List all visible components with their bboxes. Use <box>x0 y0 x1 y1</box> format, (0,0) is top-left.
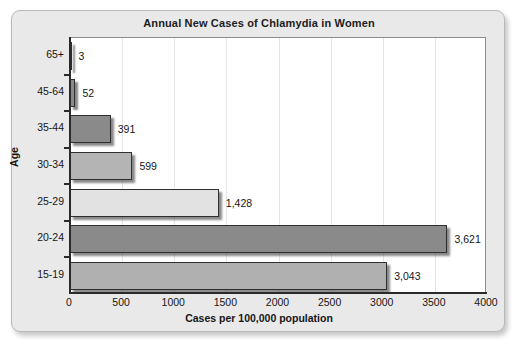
x-axis-tick-label: 2000 <box>266 296 289 308</box>
chart-title: Annual New Cases of Chlamydia in Women <box>12 17 506 29</box>
y-axis-tick <box>64 183 70 185</box>
x-axis-tick-label: 3500 <box>422 296 445 308</box>
y-axis-tick <box>64 220 70 222</box>
bar-row: 3,621 <box>70 225 486 253</box>
x-axis-labels: 05001000150020002500300035004000 <box>69 296 486 312</box>
y-axis-tick-label: 15-19 <box>16 268 64 280</box>
bar-row: 52 <box>70 79 486 107</box>
x-axis-title: Cases per 100,000 population <box>12 312 506 324</box>
bar-value-label: 3,043 <box>387 270 420 282</box>
bar-row: 3 <box>70 42 486 70</box>
bar-value-label: 391 <box>111 123 136 135</box>
y-axis-tick-label: 20-24 <box>16 231 64 243</box>
chart-card: Annual New Cases of Chlamydia in Women A… <box>11 10 505 332</box>
y-axis-tick <box>64 110 70 112</box>
bar-value-label: 3 <box>72 50 85 62</box>
bar-value-label: 52 <box>75 87 94 99</box>
bar <box>70 189 219 217</box>
bar <box>70 152 132 180</box>
y-axis-tick-label: 25-29 <box>16 195 64 207</box>
x-axis-tick-label: 2500 <box>318 296 341 308</box>
x-axis-tick-label: 500 <box>112 296 130 308</box>
bar-row: 3,043 <box>70 262 486 290</box>
bar-row: 599 <box>70 152 486 180</box>
bar-value-label: 3,621 <box>447 233 480 245</box>
x-axis-tick-label: 4000 <box>474 296 497 308</box>
bar-row: 391 <box>70 115 486 143</box>
x-axis-tick-label: 1500 <box>214 296 237 308</box>
y-axis-tick <box>64 147 70 149</box>
y-axis-tick-label: 30-34 <box>16 158 64 170</box>
plot-area: 3523915991,4283,6213,043 <box>69 37 486 293</box>
bar <box>70 262 387 290</box>
y-axis-tick-label: 45-64 <box>16 85 64 97</box>
bar-row: 1,428 <box>70 189 486 217</box>
bar-value-label: 599 <box>132 160 157 172</box>
bar <box>70 115 111 143</box>
y-axis-tick <box>64 256 70 258</box>
bar-value-label: 1,428 <box>219 197 252 209</box>
bar <box>70 225 447 253</box>
x-axis-tick-label: 3000 <box>370 296 393 308</box>
y-axis-tick-label: 35-44 <box>16 121 64 133</box>
y-axis-tick-label: 65+ <box>16 48 64 60</box>
x-axis-spine <box>69 292 487 294</box>
y-axis-tick <box>64 74 70 76</box>
x-axis-tick-label: 1000 <box>162 296 185 308</box>
x-axis-tick-label: 0 <box>66 296 72 308</box>
y-axis-labels: 65+45-6435-4430-3425-2920-2415-19 <box>12 37 64 293</box>
